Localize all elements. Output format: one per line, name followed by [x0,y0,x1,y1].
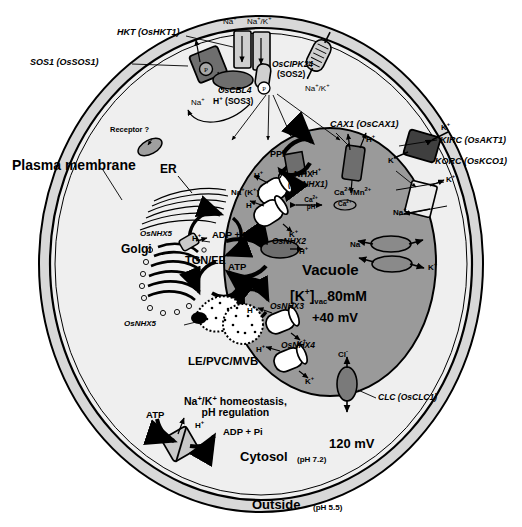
outside-label: Outside [252,498,300,512]
plasma-membrane-label: Plasma membrane [12,158,136,173]
adp-pi-label-pm: ADP + Pi [223,427,263,437]
clc-label: CLC (OsCLC1) [378,393,437,402]
na-label-top: Na+ [223,15,237,26]
cytosol-potential-label: 120 mV [329,437,375,451]
osnhx1-label: (OsNHX1) [288,180,328,189]
cytosol-label: Cytosol [240,450,288,464]
diagram-canvas: P P [0,0,522,527]
h-label-nhx1: H+ [254,169,263,180]
h-label-nhx2: H+ [299,245,308,256]
h-label-cax1: H+ [366,133,375,144]
golgi-label: Golgi [121,243,152,256]
adp-pi-label-vac: ADP + Pi [212,230,252,240]
svg-text:P: P [204,66,208,74]
h-label-pm: H+ [195,419,204,430]
ca-oval-label: Ca2+ [338,200,352,208]
two-pi-label: 2Pi [297,130,311,139]
svg-text:P: P [262,85,266,92]
h-label-tgn: H+ [192,232,201,243]
vacuole-k-concentration: [K+]vac80mM [290,288,367,307]
ca-mn-label: Ca2+/Mn2+ [334,186,371,197]
k-label-korc: K+ [446,173,455,184]
osnhx5-upper-label: OsNHX5 [140,230,172,238]
cell-diagram: P P [0,0,522,527]
kirc-label: KIRC (OsAKT1) [440,136,506,145]
sos2-label: (SOS2) [277,70,305,79]
korc-label: KORC (OsKCO1) [435,157,507,166]
na-label-korc: Na+ [393,206,407,217]
hkt-label: HKT (OsHKT1) [117,28,180,37]
receptor-label: Receptor ? [110,126,149,134]
k-label-kirc-in: K+ [388,154,397,165]
h-label-nhx3: H+ [247,304,256,315]
k-label-vac-channel: K+ [428,261,437,272]
er-label: ER [160,163,177,176]
tgn-ee-label: TGN/EE [185,255,226,267]
sos1-label: SOS1 (OsSOS1) [30,58,99,67]
sos3-label: H+ (SOS3) [213,95,253,106]
outside-ph-label: (pH 5.5) [313,504,342,512]
homeostasis-line2: pH regulation [202,406,270,418]
h-label-nhx4: H+ [256,343,265,354]
oscipk24-label: OsCIPK24 [272,60,313,69]
k-label-nhx4: K+ [305,375,314,386]
oscbl4-label: OsCBL4 [218,86,252,95]
atp-label-pm: ATP [146,410,164,420]
ppi-label: PPi [270,150,285,159]
le-pvc-mvb-label: LE/PVC/MVB [188,355,258,367]
homeostasis-label: Na+/K+ homeostasis, pH regulation [184,394,287,418]
na-label-vac-channel: Na+ [350,238,364,249]
k-label-kirc-out: K+ [441,121,450,132]
vacuole-label: Vacuole [302,262,359,278]
osnhx5-lower-label: OsNHX5 [124,320,156,328]
osnhx4-label: OsNHX4 [281,341,315,350]
na-k-label-top: Na+/K+ [247,15,272,26]
h-label-nhx1b: H+ [312,166,321,177]
h-label-nhx2a: H+ [246,199,255,210]
cax1-label: CAX1 (OsCAX1) [330,120,399,129]
hkt-transporter [234,31,251,68]
vacuole-potential-label: +40 mV [312,311,358,325]
cl-label: Cl- [338,348,348,359]
na-k-paren-label: Na+(K+) [231,186,259,197]
ca-ph-label: Ca2+pH [299,196,323,211]
na-label-sos1: Na+ [191,96,205,107]
na-k-label-upper-right: Na+/K+ [305,82,330,93]
cytosol-ph-label: (pH 7.2) [297,456,326,464]
atp-label-vac: ATP [228,262,246,272]
